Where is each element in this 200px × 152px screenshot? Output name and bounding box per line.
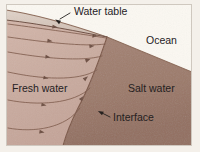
cross-section-diagram: Water table Ocean Fresh water Salt water…: [0, 0, 200, 152]
label-fresh-water: Fresh water: [12, 82, 68, 94]
coastal-aquifer-figure: Water table Ocean Fresh water Salt water…: [0, 0, 200, 152]
label-ocean: Ocean: [146, 34, 177, 46]
label-salt-water: Salt water: [128, 82, 175, 94]
label-water-table: Water table: [74, 5, 127, 17]
label-interface: Interface: [113, 111, 154, 123]
